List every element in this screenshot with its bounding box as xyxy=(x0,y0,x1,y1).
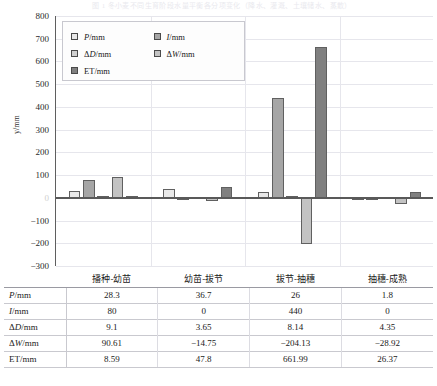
legend-swatch-i xyxy=(154,33,161,40)
table-row-label: ET/mm xyxy=(4,352,66,368)
legend-label-p: P/mm xyxy=(84,32,105,42)
category-separator xyxy=(340,16,341,266)
figure-caption: 图 1 冬小麦不同生育阶段水量平衡各分项变化（降水、灌溉、土壤储水、蒸散） xyxy=(22,1,422,11)
table-cell: 36.7 xyxy=(158,288,250,304)
legend-label-et: ET/mm xyxy=(84,66,110,76)
plot-area: P/mm I/mm ΔD/mm ΔW/mm xyxy=(55,16,433,266)
table-cell: 440 xyxy=(250,304,342,320)
table-col-header: 拔节-抽穗 xyxy=(250,272,342,288)
gridline xyxy=(56,266,433,267)
table-cell: 28.3 xyxy=(66,288,158,304)
data-table-wrapper: 播种-幼苗 幼苗-拔节 拔节-抽穗 抽穗-成熟 P/mm28.336.7261.… xyxy=(4,272,433,368)
bar[interactable] xyxy=(272,98,284,198)
table-row: ΔW/mm90.61−14.75−204.13−28.92 xyxy=(4,336,433,352)
legend-item-delta-w[interactable]: ΔW/mm xyxy=(154,49,237,59)
table-cell: 1.8 xyxy=(341,288,433,304)
legend-swatch-et xyxy=(71,67,78,74)
bar[interactable] xyxy=(83,180,95,198)
y-axis-tick-label: 200 xyxy=(1,147,49,157)
y-axis-tick-label: 400 xyxy=(1,102,49,112)
legend-row: ΔD/mm ΔW/mm xyxy=(71,45,236,62)
table-cell: 26.37 xyxy=(341,352,433,368)
legend-item-et[interactable]: ET/mm xyxy=(71,66,159,76)
bar[interactable] xyxy=(301,198,313,244)
bar[interactable] xyxy=(315,47,327,197)
y-axis-tick-label: −200 xyxy=(1,238,49,248)
table-cell: 8.14 xyxy=(250,320,342,336)
data-table: 播种-幼苗 幼苗-拔节 拔节-抽穗 抽穗-成熟 P/mm28.336.7261.… xyxy=(4,272,433,368)
bar-chart: y/mm 8007006005004003002001000−100−200−3… xyxy=(0,16,437,274)
table-cell: 8.59 xyxy=(66,352,158,368)
table-cell: 47.8 xyxy=(158,352,250,368)
table-row: ET/mm8.5947.8661.9926.37 xyxy=(4,352,433,368)
chart-legend: P/mm I/mm ΔD/mm ΔW/mm xyxy=(62,21,245,81)
table-head: 播种-幼苗 幼苗-拔节 拔节-抽穗 抽穗-成熟 xyxy=(4,272,433,288)
legend-row: ET/mm xyxy=(71,62,236,79)
y-axis-tick-label: 0 xyxy=(1,193,49,203)
legend-swatch-delta-d xyxy=(71,50,78,57)
table-cell: 9.1 xyxy=(66,320,158,336)
table-cell: −204.13 xyxy=(250,336,342,352)
table-row-label: P/mm xyxy=(4,288,66,304)
table-cell: 26 xyxy=(250,288,342,304)
table-cell: 80 xyxy=(66,304,158,320)
y-axis-tick-label: −100 xyxy=(1,216,49,226)
table-cell: 3.65 xyxy=(158,320,250,336)
y-axis-tick-label: 300 xyxy=(1,125,49,135)
table-cell: 661.99 xyxy=(250,352,342,368)
table-header-row: 播种-幼苗 幼苗-拔节 拔节-抽穗 抽穗-成熟 xyxy=(4,272,433,288)
y-axis-tick-label: 600 xyxy=(1,56,49,66)
y-axis-ticks: 8007006005004003002001000−100−200−300 xyxy=(0,16,54,266)
table-cell: −28.92 xyxy=(341,336,433,352)
legend-swatch-delta-w xyxy=(154,50,161,57)
y-axis-tick-label: 500 xyxy=(1,79,49,89)
bar[interactable] xyxy=(112,177,124,198)
table-col-header: 幼苗-拔节 xyxy=(158,272,250,288)
table-body: P/mm28.336.7261.8I/mm8004400ΔD/mm9.13.65… xyxy=(4,288,433,368)
y-axis-tick-label: −300 xyxy=(1,261,49,271)
table-row-label: ΔD/mm xyxy=(4,320,66,336)
y-axis-tick-label: 100 xyxy=(1,170,49,180)
table-cell: 0 xyxy=(158,304,250,320)
table-row: P/mm28.336.7261.8 xyxy=(4,288,433,304)
y-axis-tick-label: 800 xyxy=(1,11,49,21)
zero-line xyxy=(56,197,433,199)
chart-page: 图 1 冬小麦不同生育阶段水量平衡各分项变化（降水、灌溉、土壤储水、蒸散） y/… xyxy=(0,0,437,386)
table-cell: −14.75 xyxy=(158,336,250,352)
legend-label-delta-d: ΔD/mm xyxy=(84,49,111,59)
legend-swatch-p xyxy=(71,33,78,40)
table-col-header: 播种-幼苗 xyxy=(66,272,158,288)
y-axis-tick-label: 700 xyxy=(1,34,49,44)
legend-item-i[interactable]: I/mm xyxy=(154,32,237,42)
table-cell: 90.61 xyxy=(66,336,158,352)
table-row: ΔD/mm9.13.658.144.35 xyxy=(4,320,433,336)
bar[interactable] xyxy=(395,198,407,205)
table-row: I/mm8004400 xyxy=(4,304,433,320)
legend-row: P/mm I/mm xyxy=(71,28,236,45)
legend-item-p[interactable]: P/mm xyxy=(71,32,154,42)
legend-label-delta-w: ΔW/mm xyxy=(167,49,195,59)
legend-label-i: I/mm xyxy=(167,32,185,42)
table-row-label: ΔW/mm xyxy=(4,336,66,352)
table-row-label: I/mm xyxy=(4,304,66,320)
table-cell: 0 xyxy=(341,304,433,320)
category-separator xyxy=(245,16,246,266)
table-corner-cell xyxy=(4,272,66,288)
legend-item-delta-d[interactable]: ΔD/mm xyxy=(71,49,154,59)
table-col-header: 抽穗-成熟 xyxy=(341,272,433,288)
table-cell: 4.35 xyxy=(341,320,433,336)
